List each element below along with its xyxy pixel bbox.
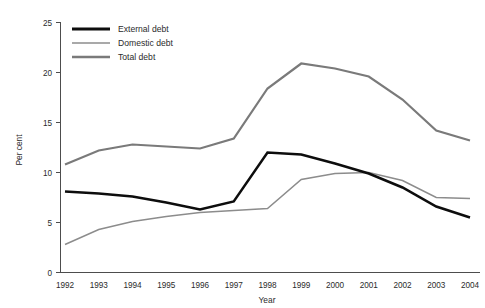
x-tick-label-1993: 1993	[90, 281, 109, 290]
chart-legend: External debt Domestic debt Total debt	[72, 24, 174, 62]
y-axis-ticks	[56, 23, 61, 273]
chart-figure: 0 5 10 15 20 25 Per cent 1992 1993 1994 …	[0, 0, 485, 308]
legend-label-domestic-debt: Domestic debt	[118, 38, 174, 48]
y-tick-label-20: 20	[43, 69, 53, 78]
x-tick-label-1996: 1996	[191, 281, 210, 290]
x-tick-label-2000: 2000	[326, 281, 345, 290]
x-tick-label-2001: 2001	[360, 281, 379, 290]
x-tick-label-1995: 1995	[157, 281, 176, 290]
series-line-total-debt	[65, 64, 470, 165]
y-tick-label-15: 15	[43, 119, 53, 128]
y-tick-label-25: 25	[43, 19, 53, 28]
x-tick-label-1998: 1998	[258, 281, 277, 290]
x-tick-label-1997: 1997	[225, 281, 244, 290]
legend-label-total-debt: Total debt	[118, 52, 156, 62]
series-line-domestic-debt	[65, 173, 470, 245]
legend-label-external-debt: External debt	[118, 24, 169, 34]
x-axis-title: Year	[259, 295, 276, 305]
x-tick-label-2002: 2002	[393, 281, 412, 290]
x-axis-tick-labels: 1992 1993 1994 1995 1996 1997 1998 1999 …	[56, 281, 480, 290]
x-tick-label-1994: 1994	[123, 281, 142, 290]
y-axis-title: Per cent	[14, 134, 24, 166]
y-tick-label-5: 5	[47, 219, 52, 228]
x-tick-label-1999: 1999	[292, 281, 311, 290]
y-tick-label-10: 10	[43, 169, 53, 178]
x-tick-label-2003: 2003	[427, 281, 446, 290]
x-tick-label-2004: 2004	[461, 281, 480, 290]
line-chart-canvas: 0 5 10 15 20 25 Per cent 1992 1993 1994 …	[0, 0, 485, 308]
y-tick-label-0: 0	[47, 269, 52, 278]
x-tick-label-1992: 1992	[56, 281, 75, 290]
